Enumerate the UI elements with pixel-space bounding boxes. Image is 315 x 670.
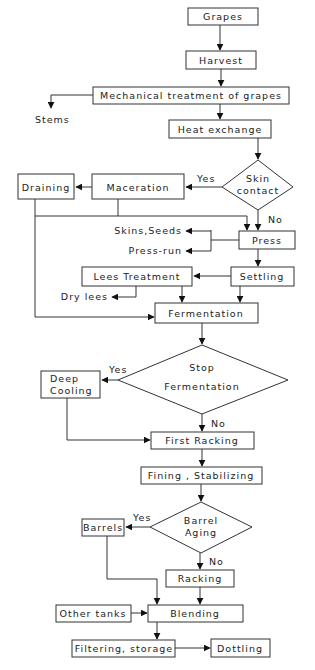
node-fermentation-label: Fermentation <box>168 308 243 319</box>
node-stems-label: Stems <box>35 114 70 125</box>
decision-stop-label-1: Stop <box>189 362 215 373</box>
node-blending: Blending <box>148 605 243 622</box>
edge-label-barrel-yes: Yes <box>132 512 151 523</box>
node-settling: Settling <box>231 267 294 286</box>
node-press: Press <box>239 231 295 249</box>
node-dry-lees-label: Dry lees <box>61 291 108 302</box>
node-mechanical-treatment: Mechanical treatment of grapes <box>93 87 289 104</box>
node-press-label: Press <box>252 235 282 246</box>
node-maceration-label: Maceration <box>106 182 169 193</box>
edge-cooling-racking <box>67 398 150 440</box>
node-racking-label: Racking <box>178 573 223 584</box>
node-deep-cooling: Deep Cooling <box>41 371 100 398</box>
decision-skin-contact: Skin contact <box>222 160 293 210</box>
winemaking-flowchart: Grapes Harvest Mechanical treatment of g… <box>0 0 315 670</box>
edge-label-stop-yes: Yes <box>108 364 127 375</box>
edge-mechanical-stems <box>51 95 93 108</box>
node-blending-label: Blending <box>170 608 220 619</box>
node-first-racking: First Racking <box>151 432 254 449</box>
node-barrels: Barrels <box>82 519 124 536</box>
node-mechanical-label: Mechanical treatment of grapes <box>100 90 282 101</box>
node-deep-cooling-label-2: Cooling <box>50 385 93 396</box>
decision-skin-contact-label-2: contact <box>237 185 280 196</box>
node-maceration: Maceration <box>92 174 184 199</box>
edge-barrels-blending <box>107 536 157 604</box>
node-grapes: Grapes <box>188 8 258 25</box>
node-other-tanks: Other tanks <box>56 605 131 622</box>
node-bottling-label: Dottling <box>217 643 263 654</box>
decision-stop-fermentation: Stop Fermentation <box>118 345 288 414</box>
node-heat-exchange: Heat exchange <box>169 120 271 138</box>
edge-lees-drylees <box>112 286 136 297</box>
node-other-tanks-label: Other tanks <box>59 608 126 619</box>
node-skins-seeds-label: Skins,Seeds <box>114 225 182 236</box>
node-deep-cooling-label-1: Deep <box>50 373 79 384</box>
node-filtering-storage: Filtering, storage <box>72 640 175 657</box>
node-fining-stabilizing: Fining , Stabilizing <box>141 467 262 484</box>
node-settling-label: Settling <box>240 271 285 282</box>
node-draining: Draining <box>18 174 74 199</box>
node-filtering-label: Filtering, storage <box>75 643 173 654</box>
edge-label-barrel-no: No <box>209 556 224 567</box>
node-bottling: Dottling <box>211 639 270 657</box>
edge-label-skin-yes: Yes <box>196 173 215 184</box>
edge-label-stop-no: No <box>211 418 226 429</box>
node-fining-label: Fining , Stabilizing <box>148 470 254 481</box>
decision-barrel-aging: Barrel Aging <box>150 502 252 553</box>
node-grapes-label: Grapes <box>203 11 243 22</box>
node-lees-treatment: Lees Treatment <box>82 267 192 286</box>
node-racking: Racking <box>166 570 234 587</box>
node-first-racking-label: First Racking <box>165 435 239 446</box>
decision-barrel-label-2: Aging <box>185 527 217 538</box>
node-fermentation: Fermentation <box>155 303 258 323</box>
node-press-run-label: Press-run <box>129 245 182 256</box>
decision-stop-label-2: Fermentation <box>164 381 239 392</box>
node-harvest-label: Harvest <box>199 55 243 66</box>
node-barrels-label: Barrels <box>83 522 123 533</box>
node-draining-label: Draining <box>22 182 70 193</box>
edge-label-skin-no: No <box>268 214 283 225</box>
node-heat-exchange-label: Heat exchange <box>178 124 263 135</box>
node-harvest: Harvest <box>186 51 256 69</box>
node-lees-treatment-label: Lees Treatment <box>93 271 180 282</box>
decision-skin-contact-label-1: Skin <box>246 173 270 184</box>
decision-barrel-label-1: Barrel <box>184 515 218 526</box>
